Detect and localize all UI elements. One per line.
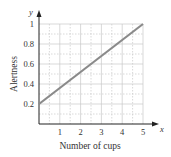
y-axis-label: Alertness [9,56,19,92]
y-tick-label: 1 [30,19,34,29]
y-axis-arrow-icon [37,10,42,17]
x-tick-labels: 12345 [58,127,145,137]
y-tick-labels: 0.20.40.60.81 [23,19,34,109]
x-tick-label: 4 [120,127,125,137]
y-tick-label: 0.6 [23,59,34,69]
x-tick-label: 2 [78,127,82,137]
x-axis-arrow-icon [152,122,159,127]
axes [37,10,160,127]
x-axis-label: Number of cups [59,141,121,151]
x-axis-variable: x [159,124,164,134]
x-tick-label: 5 [141,127,145,137]
x-tick-label: 1 [58,127,62,137]
x-tick-label: 3 [99,127,103,137]
y-tick-label: 0.4 [23,79,34,89]
grid [39,24,143,124]
chart: 12345 0.20.40.60.81 x y Number of cups A… [0,0,171,157]
y-tick-label: 0.8 [23,39,34,49]
y-tick-label: 0.2 [23,99,34,109]
y-axis-variable: y [28,7,33,17]
